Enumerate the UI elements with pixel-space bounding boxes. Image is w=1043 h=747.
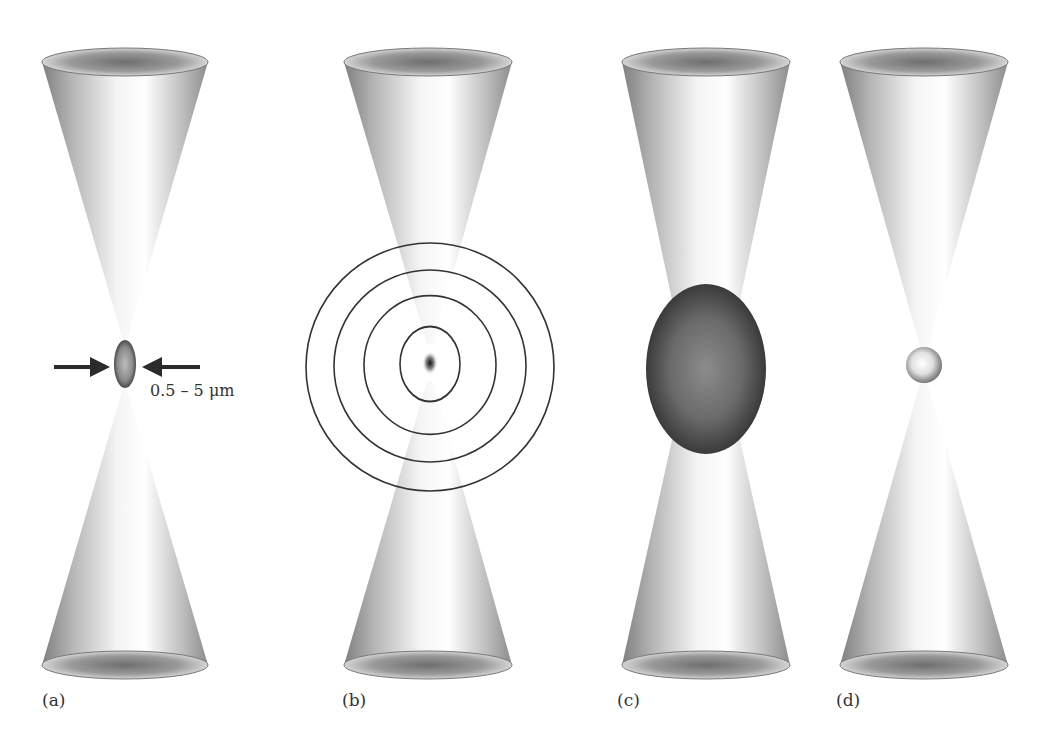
panel-d bbox=[840, 48, 1008, 679]
upper-cone bbox=[840, 48, 1008, 350]
large-ellipsoid bbox=[646, 284, 766, 454]
small-sphere bbox=[906, 347, 942, 383]
panel-label-b: (b) bbox=[342, 690, 366, 710]
lower-cone bbox=[344, 382, 512, 679]
figure-canvas bbox=[0, 0, 1043, 747]
upper-cone bbox=[344, 48, 512, 344]
panel-label-a: (a) bbox=[42, 690, 65, 710]
panel-b bbox=[306, 48, 554, 679]
panel-c bbox=[622, 48, 790, 679]
upper-cone bbox=[622, 48, 790, 300]
panel-a bbox=[42, 48, 208, 679]
lower-cone bbox=[622, 440, 790, 679]
scale-annotation: 0.5 – 5 μm bbox=[150, 381, 234, 400]
upper-cone bbox=[42, 48, 208, 340]
focal-spot bbox=[422, 351, 438, 375]
focal-ellipsoid bbox=[114, 340, 136, 388]
lower-cone bbox=[840, 380, 1008, 679]
lower-cone bbox=[42, 388, 208, 679]
panel-label-d: (d) bbox=[836, 690, 860, 710]
panel-label-c: (c) bbox=[617, 690, 640, 710]
